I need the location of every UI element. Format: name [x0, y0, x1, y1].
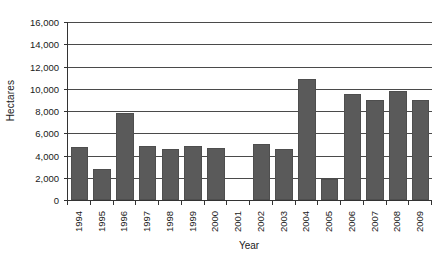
bar[interactable]	[93, 169, 110, 200]
y-axis-tick-label: 6,000	[35, 128, 59, 139]
bar-slot	[364, 22, 387, 200]
x-axis-tick-label-text: 2008	[391, 211, 402, 232]
x-axis-tick-label: 2009	[403, 206, 437, 236]
x-axis-tick-mark	[158, 200, 159, 205]
x-axis-tick-mark	[295, 200, 296, 205]
x-axis-tick-mark	[67, 200, 68, 205]
bar[interactable]	[253, 144, 270, 200]
bar-slot	[136, 22, 159, 200]
x-axis-tick-mark	[340, 200, 341, 205]
bar-slot	[273, 22, 296, 200]
bar[interactable]	[412, 100, 429, 200]
x-axis-tick-mark	[272, 200, 273, 205]
bar[interactable]	[344, 94, 361, 200]
x-axis-tick-mark	[226, 200, 227, 205]
bars-layer	[68, 22, 432, 200]
x-axis-tick-mark	[249, 200, 250, 205]
bar-slot	[159, 22, 182, 200]
x-axis-tick-labels: 1994199519961997199819992000200120022003…	[67, 206, 431, 236]
x-axis-tick-label-text: 2001	[232, 211, 243, 232]
x-axis-tick-label-text: 2007	[369, 211, 380, 232]
x-axis-tick-label-text: 1996	[118, 211, 129, 232]
bar-slot	[68, 22, 91, 200]
x-axis-tick-label-text: 2004	[300, 211, 311, 232]
x-axis-tick-mark	[386, 200, 387, 205]
bar-slot	[250, 22, 273, 200]
bar-slot	[91, 22, 114, 200]
x-axis-tick-mark	[431, 200, 432, 205]
x-axis-tick-mark	[317, 200, 318, 205]
y-axis-tick-label: 4,000	[35, 150, 59, 161]
bar-slot	[182, 22, 205, 200]
bar[interactable]	[366, 100, 383, 200]
y-axis-tick-label: 2,000	[35, 172, 59, 183]
x-axis-title: Year	[67, 240, 431, 251]
bar[interactable]	[184, 146, 201, 200]
y-axis-tick-label: 16,000	[30, 17, 59, 28]
x-axis-tick-label-text: 1999	[187, 211, 198, 232]
y-axis-tick-label: 10,000	[30, 83, 59, 94]
x-axis-tick-mark	[181, 200, 182, 205]
x-axis-tick-label-text: 2009	[414, 211, 425, 232]
x-axis-tick-mark	[113, 200, 114, 205]
y-axis-tick-label: 8,000	[35, 106, 59, 117]
x-axis-tick-label-text: 1995	[96, 211, 107, 232]
y-axis-tick-label: 0	[54, 195, 59, 206]
x-axis-tick-label-text: 2005	[323, 211, 334, 232]
bar-slot	[341, 22, 364, 200]
bar[interactable]	[389, 91, 406, 200]
bar[interactable]	[162, 149, 179, 200]
bar[interactable]	[71, 147, 88, 200]
x-axis-tick-mark	[363, 200, 364, 205]
bar-slot	[114, 22, 137, 200]
plot-area	[67, 22, 432, 200]
bar-chart: Hectares 02,0004,0006,0008,00010,00012,0…	[0, 0, 442, 263]
bar[interactable]	[275, 149, 292, 200]
bar-slot	[227, 22, 250, 200]
bar[interactable]	[298, 79, 315, 200]
x-axis-tick-mark	[408, 200, 409, 205]
x-axis-tick-mark	[135, 200, 136, 205]
bar[interactable]	[116, 113, 133, 200]
y-axis-tick-label: 14,000	[30, 39, 59, 50]
y-axis-title-label: Hectares	[6, 79, 17, 121]
y-axis-tick-label: 12,000	[30, 61, 59, 72]
x-axis-tick-label-text: 2002	[255, 211, 266, 232]
x-axis-tick-label-text: 1994	[73, 211, 84, 232]
bar-slot	[318, 22, 341, 200]
bar[interactable]	[207, 148, 224, 200]
bar-slot	[387, 22, 410, 200]
x-axis-tick-mark	[204, 200, 205, 205]
x-axis-tick-marks	[67, 200, 431, 205]
y-axis-title: Hectares	[0, 0, 22, 200]
bar[interactable]	[321, 179, 338, 200]
x-axis-tick-label-text: 2000	[209, 211, 220, 232]
x-axis-tick-label-text: 2003	[278, 211, 289, 232]
bar-slot	[205, 22, 228, 200]
x-axis-tick-mark	[90, 200, 91, 205]
x-axis-tick-label-text: 1998	[164, 211, 175, 232]
x-axis-tick-label-text: 1997	[141, 211, 152, 232]
bar-slot	[296, 22, 319, 200]
y-axis-tick-labels: 02,0004,0006,0008,00010,00012,00014,0001…	[22, 22, 64, 200]
bar[interactable]	[139, 146, 156, 201]
bar-slot	[409, 22, 432, 200]
x-axis-tick-label-text: 2006	[346, 211, 357, 232]
